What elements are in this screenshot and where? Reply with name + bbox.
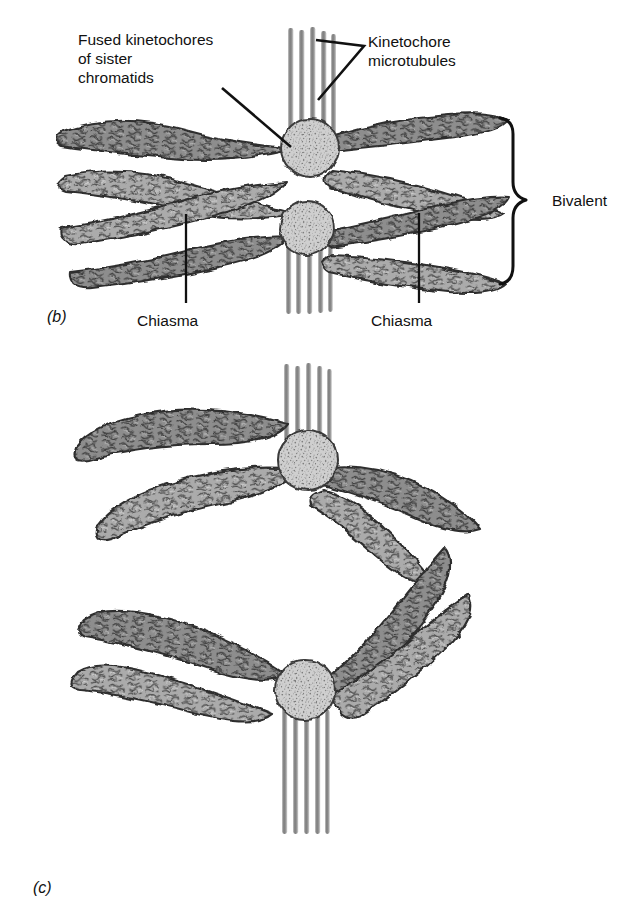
fused-kinetochore-upper bbox=[281, 119, 339, 177]
kinetochore-lower-c bbox=[275, 660, 335, 720]
chromatid-arm bbox=[97, 468, 296, 541]
panel-label-c: (c) bbox=[33, 879, 52, 897]
fused-kinetochore-lower bbox=[280, 201, 334, 255]
kinetochore-microtubules-lower-c bbox=[282, 705, 330, 834]
label-kinetochore-microtubules: Kinetochore microtubules bbox=[368, 32, 456, 70]
chromatid-arm bbox=[70, 236, 288, 288]
chromatid-arm bbox=[325, 114, 507, 151]
kinetochore-upper-c bbox=[278, 430, 338, 490]
figure-canvas: Fused kinetochores of sister chromatids … bbox=[0, 0, 628, 919]
meiosis-diagram bbox=[0, 0, 628, 919]
label-fused-kinetochores: Fused kinetochores of sister chromatids bbox=[78, 30, 213, 87]
label-chiasma-right: Chiasma bbox=[371, 311, 432, 330]
chromatid-arm bbox=[322, 256, 506, 293]
label-chiasma-left: Chiasma bbox=[137, 311, 198, 330]
chromatid-arm bbox=[75, 410, 289, 461]
leader-line-fused-kinetochores bbox=[222, 88, 291, 147]
chromatid-arm bbox=[56, 121, 295, 160]
panel-label-b: (b) bbox=[47, 308, 67, 326]
label-bivalent: Bivalent bbox=[552, 191, 607, 210]
panel-c-group bbox=[71, 363, 480, 834]
